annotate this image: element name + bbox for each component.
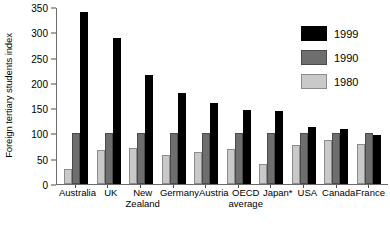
x-tick-label: France xyxy=(355,187,385,223)
bar-group xyxy=(255,8,288,184)
legend-label: 1999 xyxy=(334,28,358,40)
bar-1980 xyxy=(129,148,137,184)
legend-item: 1990 xyxy=(301,50,358,65)
bar-1980 xyxy=(97,150,105,184)
bar-1990 xyxy=(300,133,308,184)
bar-1980 xyxy=(64,169,72,184)
bar-1980 xyxy=(227,149,235,184)
x-tick-label-line1: Australia xyxy=(59,187,96,198)
y-tick-label: 50 xyxy=(37,154,48,165)
bar-1999 xyxy=(373,135,381,184)
x-tick-label-line1: Germany xyxy=(160,187,199,198)
y-tick-label: 150 xyxy=(31,104,48,115)
x-tick-label-line1: Canada xyxy=(322,187,355,198)
x-tick-label-line1: New xyxy=(133,187,152,198)
bar-1999 xyxy=(210,103,218,184)
x-tick-label-line1: UK xyxy=(104,187,117,198)
x-tick-label: Germany xyxy=(160,187,199,223)
bar-1990 xyxy=(332,133,340,184)
legend-swatch xyxy=(301,50,327,65)
bar-chart: Foreign tertiary students index 05010015… xyxy=(0,0,390,241)
legend-label: 1990 xyxy=(334,52,358,64)
bar-1990 xyxy=(105,133,113,184)
bar-1990 xyxy=(202,133,210,184)
bar-group xyxy=(60,8,93,184)
bar-1980 xyxy=(292,145,300,184)
y-axis-title-text: Foreign tertiary students index xyxy=(3,33,14,158)
bar-1999 xyxy=(178,93,186,184)
legend-swatch xyxy=(301,74,327,89)
bar-group xyxy=(190,8,223,184)
bar-1990 xyxy=(235,133,243,184)
x-tick-label-line1: OECD xyxy=(232,187,259,198)
bar-group xyxy=(125,8,158,184)
x-tick-label: Australia xyxy=(59,187,96,223)
y-tick-label: 250 xyxy=(31,53,48,64)
x-tick-label-line1: France xyxy=(355,187,385,198)
bar-1980 xyxy=(357,144,365,184)
bar-group xyxy=(223,8,256,184)
bar-1980 xyxy=(162,155,170,184)
x-tick-label: OECDaverage xyxy=(229,187,263,223)
legend-swatch xyxy=(301,26,327,41)
x-tick-label: USA xyxy=(293,187,323,223)
bar-1999 xyxy=(145,75,153,184)
x-tick-label-line1: Austria xyxy=(199,187,229,198)
x-tick-label: NewZealand xyxy=(126,187,160,223)
y-tick-label: 350 xyxy=(31,3,48,14)
y-tick-label: 100 xyxy=(31,129,48,140)
bar-1999 xyxy=(80,12,88,184)
x-tick-label-line1: Japan* xyxy=(263,187,293,198)
y-tick-label: 0 xyxy=(42,180,48,191)
bar-1999 xyxy=(340,129,348,184)
bar-group xyxy=(158,8,191,184)
legend-item: 1999 xyxy=(301,26,358,41)
y-tick-label: 200 xyxy=(31,78,48,89)
x-tick-label-line1: USA xyxy=(298,187,318,198)
legend-item: 1980 xyxy=(301,74,358,89)
bar-1990 xyxy=(137,133,145,184)
bar-1980 xyxy=(324,140,332,185)
x-axis-labels: AustraliaUKNewZealandGermanyAustriaOECDa… xyxy=(56,187,388,223)
x-tick-label: Canada xyxy=(322,187,355,223)
legend-label: 1980 xyxy=(334,76,358,88)
bar-group xyxy=(93,8,126,184)
x-tick-label-line2: average xyxy=(229,198,263,209)
x-tick-label-line2: Zealand xyxy=(126,198,160,209)
bar-1999 xyxy=(275,111,283,184)
y-tick-label: 300 xyxy=(31,28,48,39)
legend: 199919901980 xyxy=(301,26,358,98)
bar-1999 xyxy=(308,127,316,184)
bar-1999 xyxy=(243,110,251,184)
y-axis-title: Foreign tertiary students index xyxy=(1,0,15,190)
bar-1980 xyxy=(259,164,267,184)
x-tick-label: Japan* xyxy=(263,187,293,223)
bar-1980 xyxy=(194,152,202,184)
bar-1999 xyxy=(113,38,121,184)
bar-1990 xyxy=(365,133,373,184)
bar-1990 xyxy=(267,133,275,184)
x-tick-label: Austria xyxy=(199,187,229,223)
bar-1990 xyxy=(72,133,80,184)
y-axis-ticks: 050100150200250300350 xyxy=(15,0,56,190)
x-tick-label: UK xyxy=(96,187,126,223)
bar-1990 xyxy=(170,133,178,184)
